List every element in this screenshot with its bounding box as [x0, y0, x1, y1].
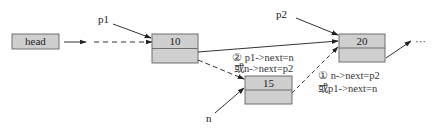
linked-list-insert-diagram [0, 0, 436, 129]
step2-annotation-line2: 或n->next=p2 [234, 63, 293, 75]
ellipsis: ··· [415, 35, 426, 47]
head-label: head [12, 34, 59, 49]
p1-pointer-arrow [113, 24, 151, 38]
n-pointer-arrow [215, 88, 244, 113]
step1-annotation-line1: ① n->next=p2 [318, 70, 380, 82]
p2-label: p2 [276, 8, 287, 20]
node-15-value: 15 [245, 76, 292, 90]
p1-label: p1 [98, 13, 109, 25]
node-20-value: 20 [339, 34, 385, 48]
n-label: n [206, 112, 212, 124]
step1-annotation-line2: 或p1->next=n [318, 83, 377, 95]
node10-to-node20-link [198, 41, 338, 52]
node-10-value: 10 [152, 34, 198, 48]
p2-pointer-arrow [296, 18, 338, 35]
node20-to-next-link [386, 41, 411, 58]
